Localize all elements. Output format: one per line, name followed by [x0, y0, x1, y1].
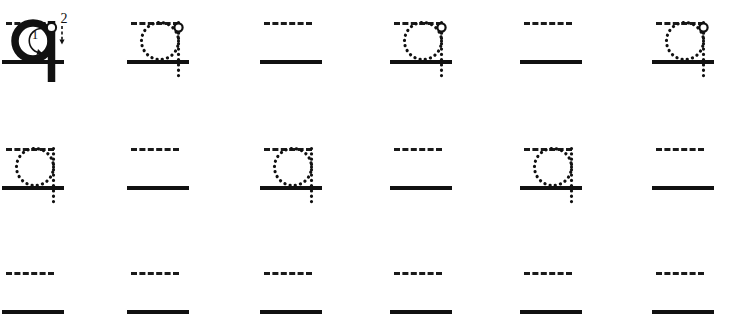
guide-midline-dashed [524, 272, 572, 275]
guide-midline-dashed [524, 22, 572, 25]
guide-baseline-solid [127, 310, 189, 314]
guide-baseline-solid [652, 310, 714, 314]
trace-letter-q [8, 136, 78, 216]
guide-baseline-solid [260, 310, 322, 314]
guide-baseline-solid [390, 310, 452, 314]
guide-midline-dashed [131, 148, 179, 151]
guide-midline-dashed [656, 272, 704, 275]
trace-letter-q [396, 10, 466, 90]
guide-midline-dashed [394, 272, 442, 275]
guide-baseline-solid [260, 60, 322, 64]
guide-baseline-solid [520, 60, 582, 64]
guide-midline-dashed [264, 272, 312, 275]
guide-midline-dashed [656, 148, 704, 151]
svg-text:2: 2 [61, 11, 68, 26]
svg-text:1: 1 [32, 27, 39, 42]
handwriting-worksheet: 12 [0, 0, 741, 326]
model-letter-q: 12 [4, 6, 90, 92]
guide-baseline-solid [520, 310, 582, 314]
guide-midline-dashed [394, 148, 442, 151]
guide-midline-dashed [264, 22, 312, 25]
guide-baseline-solid [390, 186, 452, 190]
guide-midline-dashed [131, 272, 179, 275]
guide-baseline-solid [127, 186, 189, 190]
trace-letter-q [526, 136, 596, 216]
guide-baseline-solid [652, 186, 714, 190]
trace-letter-q [133, 10, 203, 90]
guide-baseline-solid [2, 310, 64, 314]
guide-midline-dashed [6, 272, 54, 275]
trace-letter-q [658, 10, 728, 90]
trace-letter-q [266, 136, 336, 216]
